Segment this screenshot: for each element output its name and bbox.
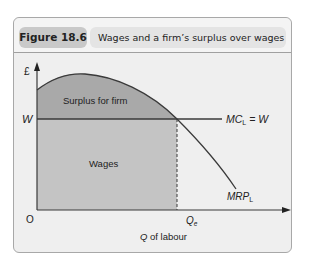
qe-label: Qe [186, 215, 198, 227]
mc-label: MCL = W [226, 113, 269, 126]
x-axis-arrow-icon [282, 207, 291, 213]
w-label: W [22, 113, 34, 125]
y-axis-label: £ [24, 66, 30, 77]
mrp-label: MRPL [227, 191, 253, 203]
diagram-plot: £ W O Surplus for firm Wages MCL = W MRP… [0, 0, 309, 267]
y-axis-arrow-icon [34, 62, 40, 71]
wages-label: Wages [89, 158, 118, 169]
x-axis-label: Q of labour [140, 231, 187, 242]
surplus-label: Surplus for firm [63, 95, 127, 106]
origin-label: O [26, 214, 34, 225]
